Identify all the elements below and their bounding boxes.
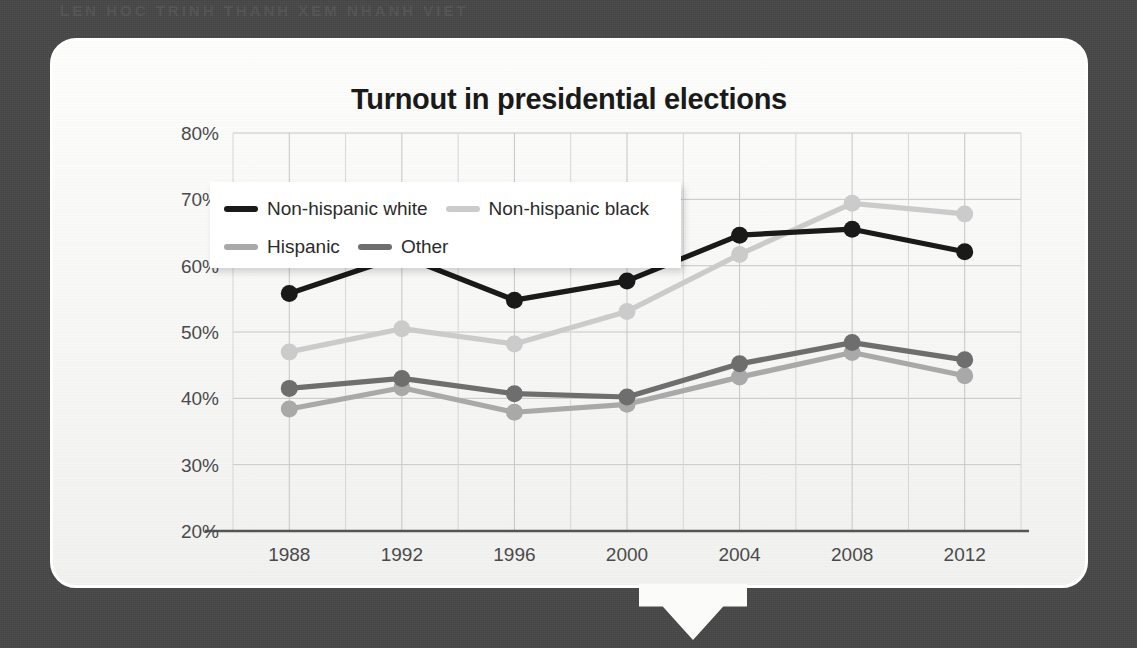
ghost-text-top: LEN HOC TRINH THANH XEM NHANH VIET xyxy=(60,2,1137,32)
x-tick-label: 1988 xyxy=(268,544,310,565)
chart-callout-panel: Turnout in presidential elections 20%30%… xyxy=(50,38,1088,588)
chart-legend: Non-hispanic white Non-hispanic black Hi… xyxy=(210,182,681,268)
legend-row-1: Non-hispanic white Non-hispanic black xyxy=(224,190,669,228)
y-tick-label: 80% xyxy=(181,123,219,144)
legend-item-other[interactable]: Other xyxy=(358,236,449,258)
x-tick-label: 2012 xyxy=(944,544,986,565)
x-tick-label: 1992 xyxy=(381,544,423,565)
legend-item-non-hispanic-black[interactable]: Non-hispanic black xyxy=(446,198,650,220)
legend-swatch-icon xyxy=(446,206,480,212)
legend-item-non-hispanic-white[interactable]: Non-hispanic white xyxy=(224,198,428,220)
legend-label: Hispanic xyxy=(267,236,340,258)
legend-label: Non-hispanic black xyxy=(489,198,650,220)
y-tick-label: 30% xyxy=(181,455,219,476)
x-tick-label: 2004 xyxy=(718,544,761,565)
x-tick-label: 2008 xyxy=(831,544,873,565)
x-tick-label: 2000 xyxy=(606,544,648,565)
x-tick-label: 1996 xyxy=(493,544,535,565)
y-tick-label: 50% xyxy=(181,322,219,343)
callout-arrow-icon xyxy=(639,584,747,640)
legend-swatch-icon xyxy=(224,206,258,212)
line-chart-svg: 20%30%40%50%60%70%80% 198819921996200020… xyxy=(53,41,1088,588)
legend-swatch-icon xyxy=(224,244,258,250)
legend-item-hispanic[interactable]: Hispanic xyxy=(224,236,340,258)
y-tick-label: 20% xyxy=(181,521,219,542)
y-tick-label: 40% xyxy=(181,388,219,409)
legend-label: Other xyxy=(401,236,449,258)
plot-area: 20%30%40%50%60%70%80% 198819921996200020… xyxy=(53,41,1088,588)
x-axis-tick-labels: 1988199219962000200420082012 xyxy=(268,544,986,565)
legend-swatch-icon xyxy=(358,244,392,250)
legend-label: Non-hispanic white xyxy=(267,198,428,220)
legend-row-2: Hispanic Other xyxy=(224,228,669,266)
